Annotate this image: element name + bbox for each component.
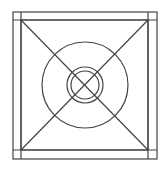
diagram-canvas — [0, 0, 168, 172]
